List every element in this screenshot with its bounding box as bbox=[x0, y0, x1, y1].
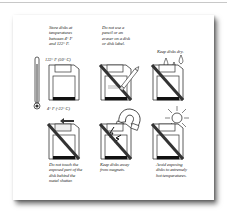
label-high-temp: 122° F (50° C) bbox=[45, 57, 71, 62]
caption-no-heat: Avoid exposing disks to extremely hot te… bbox=[156, 162, 204, 178]
top-rule bbox=[0, 2, 227, 3]
caption-line: or disk label. bbox=[102, 41, 144, 46]
caption-no-magnets: Keep disks away from magnets. bbox=[100, 162, 144, 173]
caption-temperature: Store disks at temperatures between 4° F… bbox=[49, 25, 89, 47]
caption-line: and 122° F. bbox=[49, 41, 89, 46]
floppy-disk-no-magnets bbox=[100, 123, 132, 160]
caption-line: metal shutter. bbox=[49, 178, 95, 183]
caption-no-shutter-touch: Do not touch the exposed part of the dis… bbox=[49, 162, 95, 184]
pencil-icon bbox=[118, 62, 144, 92]
caption-line: from magnets. bbox=[100, 167, 144, 172]
floppy-disk-temperature bbox=[48, 64, 80, 101]
label-low-temp: 4° F (-22° C) bbox=[47, 106, 70, 111]
caption-no-pencil: Do not use a pencil or an eraser on a di… bbox=[102, 25, 144, 47]
thermometer-icon bbox=[32, 56, 42, 112]
floppy-disk-keep-dry bbox=[152, 64, 184, 101]
floppy-disk-no-shutter-touch bbox=[48, 123, 80, 160]
floppy-disk-no-heat bbox=[152, 123, 184, 160]
caption-line: hot temperatures. bbox=[156, 173, 204, 178]
